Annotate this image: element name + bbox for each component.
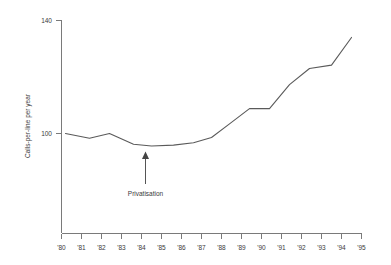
x-tick-label-1985: '85 bbox=[157, 244, 166, 251]
x-tick-label-1984: '84 bbox=[137, 244, 146, 251]
x-tick-label-1995: '95 bbox=[357, 244, 366, 251]
x-tick-label-1988: '88 bbox=[217, 244, 226, 251]
x-tick-label-1990: '90 bbox=[257, 244, 266, 251]
x-tick-label-1993: '93 bbox=[317, 244, 326, 251]
x-tick-label-1987: '87 bbox=[197, 244, 206, 251]
annotation-label: Privatisation bbox=[128, 190, 164, 197]
x-tick-label-1991: '91 bbox=[277, 244, 286, 251]
x-tick-label-1994: '94 bbox=[337, 244, 346, 251]
x-tick-label-1989: '89 bbox=[237, 244, 246, 251]
chart-canvas: 140 100 Calls-per-line per year '80 '81 … bbox=[0, 0, 391, 265]
x-tick-label-1982: '82 bbox=[97, 244, 106, 251]
x-tick-label-1980: '80 bbox=[57, 244, 66, 251]
x-tick-label-1981: '81 bbox=[77, 244, 86, 251]
x-tick-label-1992: '92 bbox=[297, 244, 306, 251]
annotation-arrow-head-icon bbox=[142, 152, 149, 160]
y-tick-label-140: 140 bbox=[41, 17, 52, 24]
privatisation-annotation: Privatisation bbox=[128, 152, 164, 198]
y-axis-title: Calls-per-line per year bbox=[24, 93, 32, 158]
line-chart-figure: 140 100 Calls-per-line per year '80 '81 … bbox=[0, 0, 391, 265]
x-tick-label-1986: '86 bbox=[177, 244, 186, 251]
data-series-line bbox=[66, 37, 352, 145]
y-tick-label-100: 100 bbox=[41, 130, 52, 137]
x-tick-label-1983: '83 bbox=[117, 244, 126, 251]
